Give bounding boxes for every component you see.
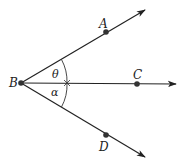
point-c xyxy=(134,81,140,87)
ray-ba xyxy=(21,10,145,83)
angle-arc-theta xyxy=(62,60,68,84)
label-alpha: α xyxy=(51,86,59,99)
ray-bc xyxy=(21,83,176,84)
label-theta: θ xyxy=(52,68,59,81)
label-a: A xyxy=(98,17,108,31)
angle-diagram: B A C D θ α xyxy=(0,0,191,165)
label-d: D xyxy=(98,140,109,154)
label-c: C xyxy=(133,68,142,82)
point-d xyxy=(103,132,109,138)
angle-arc-alpha xyxy=(62,83,68,107)
point-b xyxy=(18,80,24,86)
ray-bd xyxy=(21,83,145,157)
label-b: B xyxy=(8,76,18,90)
